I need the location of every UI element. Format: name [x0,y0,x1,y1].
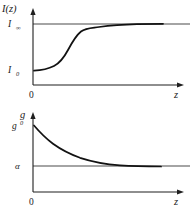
gain-y-axis-arrow-icon [30,112,35,119]
gain-initial-level-label: g [12,121,17,131]
intensity-x-axis-label: z [173,89,178,100]
intensity-lower-level-label: I [7,65,12,75]
intensity-x-axis-arrow-icon [177,82,184,87]
intensity-curve [34,24,163,71]
gain-origin-label: 0 [29,197,34,207]
intensity-upper-level-subscript: ∞ [16,24,21,31]
intensity-upper-level-label: I [7,19,12,29]
intensity-panel: I(z) I ∞ I 0 0 z [0,0,196,104]
gain-curve [34,126,161,167]
gain-alpha-level-label: α [15,161,20,171]
intensity-lower-level-subscript: 0 [16,70,20,77]
gain-x-axis-label: z [173,196,178,207]
gain-panel: g g 0 α 0 z [0,104,196,208]
intensity-origin-label: 0 [29,90,34,100]
intensity-y-axis-arrow-icon [30,8,35,15]
gain-x-axis-arrow-icon [177,189,184,194]
figure-root: I(z) I ∞ I 0 0 z g g 0 α [0,0,196,208]
intensity-y-axis-label: I(z) [1,3,17,15]
